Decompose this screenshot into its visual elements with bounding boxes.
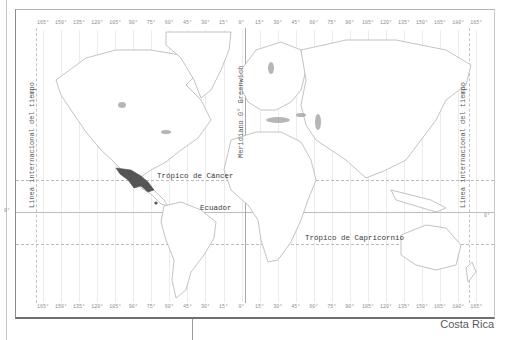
longitude-label: 30° [201, 304, 210, 310]
longitude-label: 45° [183, 304, 192, 310]
longitude-label: 75° [327, 304, 336, 310]
longitude-label: 135° [398, 20, 410, 26]
tropic-capricorn-label: Trópico de Capricornio [305, 234, 404, 242]
longitude-label: 15° [219, 304, 228, 310]
longitude-label: 120° [91, 304, 103, 310]
longitude-label: 180° [452, 304, 464, 310]
longitude-label: 105° [109, 20, 121, 26]
longitude-label: 150° [416, 20, 428, 26]
tropic-cancer-label: Trópico de Cáncer [157, 172, 234, 180]
page-edge-left [6, 0, 7, 340]
longitude-label: 45° [183, 20, 192, 26]
equator-degree-right: 0° [484, 213, 490, 219]
longitude-label: 15° [255, 20, 264, 26]
longitude-label: 165° [434, 304, 446, 310]
longitude-label: 0° [239, 20, 245, 26]
greenwich-label: Meridiano 0° Greenwich [237, 66, 245, 158]
longitude-label: 15° [255, 304, 264, 310]
page-fold-line [192, 316, 193, 340]
longitude-label: 105° [362, 20, 374, 26]
longitude-label: 90° [129, 304, 138, 310]
longitude-label: 90° [345, 20, 354, 26]
continents [16, 10, 494, 317]
longitude-label: 45° [291, 304, 300, 310]
longitude-label: 75° [147, 304, 156, 310]
longitude-label: 150° [416, 304, 428, 310]
longitude-label: 0° [239, 304, 245, 310]
country-caption: Costa Rica [440, 318, 494, 330]
longitude-label: 75° [147, 20, 156, 26]
longitude-label: 135° [73, 20, 85, 26]
longitude-label: 75° [327, 20, 336, 26]
longitude-label: 165° [470, 304, 482, 310]
longitude-label: 135° [398, 304, 410, 310]
world-map: 165°150°135°120°105°90°75°60°45°30°15°0°… [15, 9, 495, 319]
longitude-label: 150° [55, 304, 67, 310]
longitude-label: 45° [291, 20, 300, 26]
longitude-label: 165° [37, 20, 49, 26]
date-line-right-label: Línea internacional del tiempo [459, 82, 467, 208]
longitude-label: 150° [55, 20, 67, 26]
longitude-label: 105° [109, 304, 121, 310]
longitude-label: 30° [201, 20, 210, 26]
longitude-label: 30° [273, 20, 282, 26]
date-line-left-label: Línea internacional del tiempo [28, 82, 36, 208]
longitude-label: 60° [165, 304, 174, 310]
longitude-label: 120° [380, 20, 392, 26]
longitude-label: 105° [362, 304, 374, 310]
longitude-label: 60° [309, 304, 318, 310]
longitude-label: 135° [73, 304, 85, 310]
longitude-label: 90° [129, 20, 138, 26]
longitude-label: 165° [37, 304, 49, 310]
longitude-label: 15° [219, 20, 228, 26]
longitude-label: 165° [470, 20, 482, 26]
longitude-label: 165° [434, 20, 446, 26]
longitude-label: 120° [91, 20, 103, 26]
longitude-label: 180° [452, 20, 464, 26]
equator-degree-left: 0° [4, 208, 10, 214]
longitude-label: 60° [309, 20, 318, 26]
longitude-label: 120° [380, 304, 392, 310]
longitude-label: 90° [345, 304, 354, 310]
longitude-label: 60° [165, 20, 174, 26]
equator-label: Ecuador [200, 204, 232, 212]
longitude-label: 30° [273, 304, 282, 310]
